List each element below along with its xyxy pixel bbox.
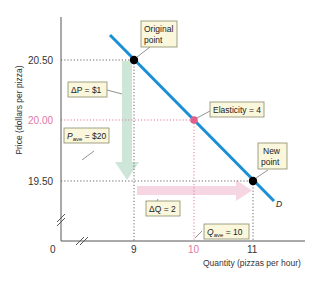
svg-text:ΔP = $1: ΔP = $1 xyxy=(71,85,102,95)
x-tick-9: 9 xyxy=(131,244,137,255)
delta-p-label: ΔP = $1 xyxy=(68,82,107,97)
svg-text:Original: Original xyxy=(144,24,173,34)
y-tick-1950: 19.50 xyxy=(28,176,53,187)
y-tick-2050: 20.50 xyxy=(28,55,53,66)
svg-text:point: point xyxy=(144,35,163,45)
y-axis-label: Price (dollars per pizza) xyxy=(14,65,24,154)
midpoint-marker xyxy=(190,116,198,124)
elasticity-label: Elasticity = 4 xyxy=(210,102,264,117)
svg-text:Elasticity = 4: Elasticity = 4 xyxy=(213,105,261,115)
svg-text:point: point xyxy=(261,157,280,167)
x-tick-0: 0 xyxy=(50,244,56,255)
y-tick-2000: 20.00 xyxy=(28,115,53,126)
p-ave-label: Pave = $20 xyxy=(64,128,109,143)
original-point-label: Original point xyxy=(141,21,177,47)
svg-text:New: New xyxy=(263,146,281,156)
x-tick-10: 10 xyxy=(188,244,200,255)
original-point-marker xyxy=(130,56,138,64)
elasticity-chart: Original point Elasticity = 4 New point … xyxy=(0,0,322,283)
q-ave-label: Qave = 10 xyxy=(204,224,249,239)
new-point-label: New point xyxy=(258,143,287,169)
svg-text:ΔQ = 2: ΔQ = 2 xyxy=(149,204,176,214)
x-tick-11: 11 xyxy=(247,244,258,255)
svg-text:Qave = 10: Qave = 10 xyxy=(207,227,243,238)
curve-label-d: D xyxy=(276,199,282,209)
new-point-marker xyxy=(249,177,257,185)
x-axis-label: Quantity (pizzas per hour) xyxy=(203,258,301,268)
delta-q-label: ΔQ = 2 xyxy=(146,201,180,216)
